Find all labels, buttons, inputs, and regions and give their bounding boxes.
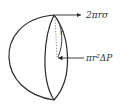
cross-section-left-edge [45,15,54,100]
radius-guide-dotted-line [55,17,57,57]
surface-tension-label: 2πrσ [85,10,109,20]
pressure-force-label: πr²ΔP [85,53,113,63]
hemisphere-diagram: r 2πrσ πr²ΔP [0,0,124,108]
hemisphere-outer-arc [9,15,54,100]
